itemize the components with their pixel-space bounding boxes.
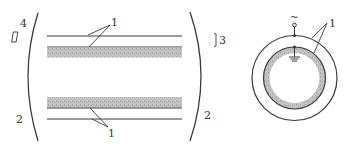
label-2-right: 2 [204, 109, 211, 122]
label-3: 3 [219, 34, 226, 47]
diagram-canvas: 4 2 2 3 1 1 ~ 1 [0, 0, 355, 149]
label-4: 4 [20, 17, 27, 30]
left-wall-curve [28, 13, 38, 141]
right-wall-curve [190, 12, 201, 141]
label-2-left: 2 [16, 113, 23, 126]
bottom-leader-lines [90, 108, 108, 127]
label-1-bottom: 1 [108, 127, 115, 140]
outer-junction-dot [293, 34, 296, 37]
ac-source-symbol: ~ [290, 11, 298, 22]
bracket-3 [214, 33, 216, 47]
top-dielectric-layer [47, 48, 182, 58]
bottom-dielectric-layer [47, 97, 182, 108]
window-symbol [12, 32, 18, 42]
label-1-transverse: 1 [329, 17, 336, 30]
ac-terminal-icon [293, 23, 297, 27]
label-1-top: 1 [111, 16, 118, 29]
